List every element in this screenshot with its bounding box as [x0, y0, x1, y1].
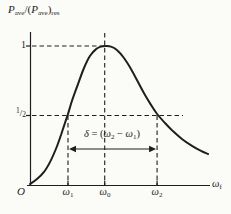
x-tick-label-omega1: ω1: [56, 187, 80, 199]
origin-label: O: [17, 186, 25, 197]
x-tick-label-omega0: ω0: [93, 187, 117, 199]
resonance-curve-figure: Pave/(Pave)res 1 1/2 O ω1 ω0 ω2 ωf δ = (…: [0, 0, 231, 214]
bandwidth-arrowhead-left: [69, 146, 76, 152]
bandwidth-annotation: δ = (ω2 − ω1): [63, 129, 161, 141]
y-axis-title: Pave/(Pave)res: [8, 4, 59, 17]
x-tick-label-omega2: ω2: [145, 187, 169, 199]
bandwidth-arrowhead-right: [149, 146, 156, 152]
y-tick-label-half: 1/2: [8, 107, 26, 119]
y-tick-label-1: 1: [12, 40, 26, 50]
figure-canvas: [0, 0, 231, 214]
x-axis-title: ωf: [212, 179, 222, 191]
